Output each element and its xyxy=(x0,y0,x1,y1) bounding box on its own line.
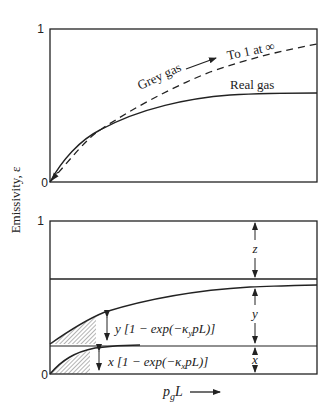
y-term-text: y [1 − exp(−κ xyxy=(113,321,189,336)
y-label: y xyxy=(250,306,258,321)
emissivity-diagram: Emissivity, ε 1 0 Grey gas To 1 at ∞ Rea… xyxy=(0,0,334,416)
y-axis-label: Emissivity, ε xyxy=(8,166,23,233)
real-gas-label: Real gas xyxy=(230,77,274,92)
x-axis-label-tail: L xyxy=(174,384,183,399)
bottom-panel: 1 0 y [1 − exp(−κypL)] x [1 − exp(−κxpL)… xyxy=(37,214,317,382)
x-axis-label-main: p xyxy=(162,384,170,399)
real-gas-curve xyxy=(50,93,317,182)
top-ytick-1: 1 xyxy=(37,22,44,36)
y-term-tail: pL)] xyxy=(191,321,215,336)
y-hatched-area xyxy=(50,316,96,344)
z-label: z xyxy=(251,241,257,256)
top-ytick-0: 0 xyxy=(41,176,48,190)
bottom-ytick-0: 0 xyxy=(41,368,48,382)
grey-gas-label: Grey gas xyxy=(135,59,184,92)
bottom-ytick-1: 1 xyxy=(37,214,44,228)
x-label: x xyxy=(251,352,258,367)
asymptote-label: To 1 at ∞ xyxy=(226,38,276,63)
y-term-label: y [1 − exp(−κypL)] xyxy=(113,321,215,338)
x-axis-label: pgL xyxy=(162,384,183,402)
grey-gas-curve xyxy=(50,44,317,182)
x-hatched-area xyxy=(50,350,90,374)
top-panel: 1 0 Grey gas To 1 at ∞ Real gas xyxy=(37,22,317,190)
grey-gas-arrow-icon xyxy=(186,58,216,69)
x-term-tail: pL)] xyxy=(184,354,208,369)
x-term-label: x [1 − exp(−κxpL)] xyxy=(107,354,208,371)
bottom-panel-frame xyxy=(50,221,317,374)
x-term-text: x [1 − exp(−κ xyxy=(107,354,182,369)
